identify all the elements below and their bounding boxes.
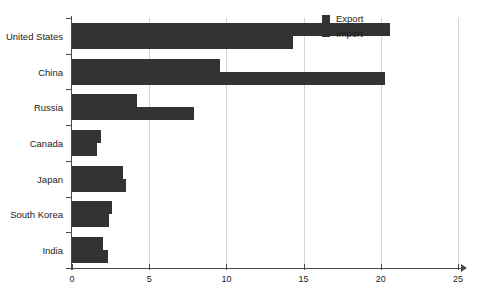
- y-axis-tick: [66, 232, 72, 233]
- y-axis-tick: [66, 89, 72, 90]
- x-axis-line: [71, 268, 464, 269]
- gridline: [458, 18, 459, 268]
- x-axis-tick-label: 20: [376, 274, 386, 284]
- chart-legend: Export Import: [322, 14, 363, 38]
- y-axis-category-label: China: [0, 66, 63, 77]
- x-axis-tick: [304, 264, 305, 270]
- legend-label-import: Import: [336, 29, 363, 39]
- y-axis-tick: [66, 268, 72, 269]
- bar-import-united-states: [72, 36, 293, 49]
- bar-import-russia: [72, 107, 194, 120]
- bar-import-china: [72, 72, 385, 85]
- legend-swatch-import: [322, 29, 330, 37]
- y-axis-tick: [66, 161, 72, 162]
- bar-export-canada: [72, 130, 101, 143]
- gridline: [381, 18, 382, 268]
- bar-export-india: [72, 237, 103, 250]
- gridline: [226, 18, 227, 268]
- x-axis-tick: [72, 264, 73, 270]
- bar-import-japan: [72, 179, 126, 192]
- x-axis-tick: [381, 264, 382, 270]
- y-axis-category-label: Canada: [0, 138, 63, 149]
- x-axis-arrow-icon: [461, 264, 467, 272]
- y-axis-tick: [66, 18, 72, 19]
- x-axis-tick: [149, 264, 150, 270]
- gridline: [304, 18, 305, 268]
- bar-export-south-korea: [72, 201, 112, 214]
- y-axis-tick: [66, 54, 72, 55]
- bar-export-japan: [72, 166, 123, 179]
- gridline: [149, 18, 150, 268]
- y-axis-tick: [66, 125, 72, 126]
- x-axis-tick-label: 5: [147, 274, 152, 284]
- y-axis-category-label: India: [0, 245, 63, 256]
- x-axis-tick-label: 15: [299, 274, 309, 284]
- bar-import-south-korea: [72, 214, 109, 227]
- x-axis-tick: [458, 264, 459, 270]
- y-axis-category-label: Russia: [0, 102, 63, 113]
- legend-item-import[interactable]: Import: [322, 29, 363, 39]
- y-axis-tick: [66, 197, 72, 198]
- bar-import-india: [72, 250, 108, 263]
- legend-label-export: Export: [336, 14, 363, 24]
- bar-export-russia: [72, 94, 137, 107]
- x-axis-tick: [226, 264, 227, 270]
- y-axis-category-label: United States: [0, 30, 63, 41]
- y-axis-category-label: South Korea: [0, 209, 63, 220]
- x-axis-tick-label: 25: [453, 274, 463, 284]
- x-axis-tick-label: 10: [221, 274, 231, 284]
- y-axis-category-label: Japan: [0, 173, 63, 184]
- legend-item-export[interactable]: Export: [322, 14, 363, 24]
- bar-chart: 0510152025 United StatesChinaRussiaCanad…: [0, 0, 481, 304]
- x-axis-tick-label: 0: [69, 274, 74, 284]
- bar-import-canada: [72, 143, 97, 156]
- bar-export-china: [72, 59, 220, 72]
- legend-swatch-export: [322, 15, 330, 23]
